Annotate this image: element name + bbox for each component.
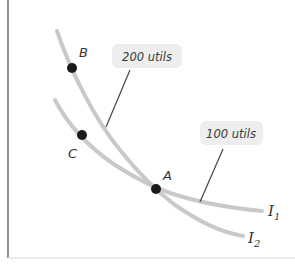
indifference-curve-i1 — [55, 100, 262, 211]
point-a-label: A — [162, 168, 172, 183]
callout-100-utils: 100 utils — [206, 127, 256, 141]
curve-i2-label: I2 — [247, 229, 260, 249]
curve-i1-label: I1 — [267, 202, 280, 222]
point-c-label: C — [68, 146, 78, 161]
point-a — [151, 184, 161, 194]
callout-100-pointer — [200, 149, 223, 202]
point-b — [67, 63, 77, 73]
callout-200-pointer — [106, 70, 130, 127]
indifference-curve-diagram: 200 utils 100 utils B C A I1 I2 — [0, 0, 295, 268]
callout-200-utils: 200 utils — [122, 50, 172, 64]
diagram-canvas: 200 utils 100 utils B C A I1 I2 — [0, 0, 295, 268]
point-b-label: B — [79, 45, 88, 60]
point-c — [77, 130, 87, 140]
